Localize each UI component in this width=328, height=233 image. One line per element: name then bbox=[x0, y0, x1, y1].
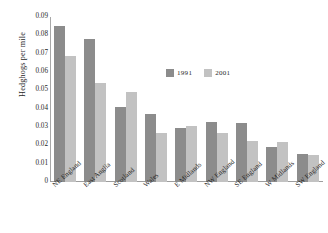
y-axis-tick-label: 0.07 bbox=[35, 50, 48, 57]
bar-group bbox=[141, 17, 171, 182]
bar-1991-east-anglia[interactable] bbox=[84, 39, 95, 182]
legend-swatch-icon bbox=[166, 69, 174, 77]
bar-group bbox=[202, 17, 232, 182]
y-axis-tick-labels: 0.090.080.070.060.050.040.030.020.010 bbox=[22, 17, 48, 182]
bar-group bbox=[293, 17, 323, 182]
legend-swatch-icon bbox=[204, 69, 212, 77]
bar-1991-ne-england[interactable] bbox=[54, 26, 65, 182]
bar-group bbox=[262, 17, 292, 182]
y-axis-tick-label: 0.03 bbox=[35, 123, 48, 130]
plot-area bbox=[50, 17, 323, 182]
y-axis-tick-label: 0.08 bbox=[35, 32, 48, 39]
bar-group bbox=[232, 17, 262, 182]
legend-label: 1991 bbox=[177, 69, 192, 77]
legend-item-1991[interactable]: 1991 bbox=[166, 69, 192, 77]
y-axis-tick-label: 0.01 bbox=[35, 160, 48, 167]
y-axis-tick-label: 0 bbox=[44, 178, 48, 185]
y-axis-tick-label: 0.02 bbox=[35, 142, 48, 149]
x-axis-tick-labels: NE EnglandEast AngliaScotlandWalesE Midl… bbox=[50, 183, 323, 233]
bar-group bbox=[171, 17, 201, 182]
legend-label: 2001 bbox=[215, 69, 230, 77]
y-axis-tick-label: 0.06 bbox=[35, 68, 48, 75]
hedgehog-density-bar-chart: Hedghogs per mile 0.090.080.070.060.050.… bbox=[0, 0, 328, 233]
legend-item-2001[interactable]: 2001 bbox=[204, 69, 230, 77]
y-axis-tick-label: 0.05 bbox=[35, 87, 48, 94]
legend: 19912001 bbox=[166, 69, 230, 77]
bar-group bbox=[80, 17, 110, 182]
y-axis-tick-label: 0.04 bbox=[35, 105, 48, 112]
bars-layer bbox=[50, 17, 323, 182]
bar-group bbox=[111, 17, 141, 182]
bar-group bbox=[50, 17, 80, 182]
y-axis-tick-label: 0.09 bbox=[35, 13, 48, 20]
